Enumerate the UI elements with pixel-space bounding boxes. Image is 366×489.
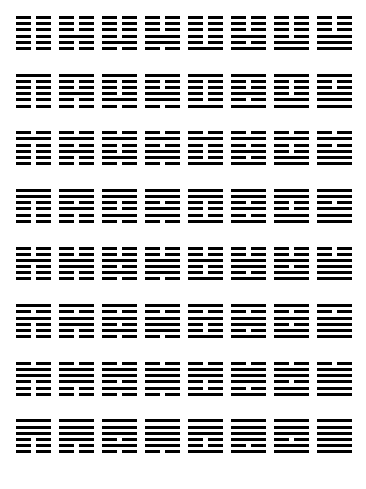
yin-line	[145, 450, 180, 453]
yang-line	[16, 432, 51, 435]
line-segment	[59, 432, 94, 435]
hexagram-24	[317, 131, 352, 165]
line-segment-left	[16, 201, 31, 204]
line-segment	[16, 259, 51, 262]
line-segment-left	[188, 98, 203, 101]
line-segment-right	[251, 86, 266, 89]
yin-line	[145, 80, 180, 83]
yang-line	[16, 304, 51, 307]
line-segment-right	[79, 41, 94, 44]
yin-line	[188, 329, 223, 332]
line-segment-right	[79, 22, 94, 25]
line-segment	[274, 137, 309, 140]
line-segment-right	[165, 105, 180, 108]
yang-line	[274, 304, 309, 307]
line-segment-left	[16, 323, 31, 326]
hexagram-57	[16, 419, 51, 453]
line-segment-right	[79, 393, 94, 396]
hexagram-cell	[55, 72, 98, 130]
line-segment	[274, 156, 309, 159]
hexagram-cell	[313, 417, 356, 475]
yin-line	[16, 387, 51, 390]
hexagram-49	[16, 362, 51, 396]
line-segment-right	[208, 380, 223, 383]
yin-line	[59, 387, 94, 390]
yang-line	[317, 374, 352, 377]
line-segment	[231, 304, 266, 307]
yang-line	[231, 426, 266, 429]
hexagram-cell	[184, 187, 227, 245]
yang-line	[274, 98, 309, 101]
yin-line	[188, 362, 223, 365]
hexagram-cell	[141, 360, 184, 418]
yang-line	[102, 259, 137, 262]
line-segment	[188, 74, 223, 77]
hexagram-cell	[98, 72, 141, 130]
yin-line	[59, 144, 94, 147]
hexagram-39	[274, 247, 309, 281]
line-segment	[317, 214, 352, 217]
yin-line	[16, 362, 51, 365]
yin-line	[188, 41, 223, 44]
line-segment-right	[251, 329, 266, 332]
line-segment	[274, 432, 309, 435]
line-segment-right	[36, 438, 51, 441]
hexagram-6	[231, 16, 266, 50]
yin-line	[274, 16, 309, 19]
line-segment-left	[102, 105, 117, 108]
yin-line	[59, 271, 94, 274]
yang-line	[59, 189, 94, 192]
hexagram-cell	[313, 72, 356, 130]
line-segment-right	[165, 220, 180, 223]
line-segment	[188, 368, 223, 371]
hexagram-62	[231, 419, 266, 453]
line-segment-left	[274, 92, 289, 95]
yang-line	[59, 368, 94, 371]
line-segment	[231, 189, 266, 192]
line-segment-right	[79, 28, 94, 31]
yin-line	[16, 86, 51, 89]
line-segment-right	[208, 131, 223, 134]
line-segment-right	[208, 92, 223, 95]
hexagram-8	[317, 16, 352, 50]
yang-line	[145, 317, 180, 320]
line-segment	[317, 35, 352, 38]
yin-line	[188, 16, 223, 19]
yang-line	[102, 214, 137, 217]
yin-line	[274, 28, 309, 31]
line-segment	[16, 137, 51, 140]
line-segment-left	[188, 380, 203, 383]
yin-line	[145, 220, 180, 223]
yang-line	[231, 35, 266, 38]
yin-line	[274, 131, 309, 134]
yang-line	[274, 105, 309, 108]
yang-line	[317, 35, 352, 38]
line-segment	[317, 259, 352, 262]
line-segment	[274, 47, 309, 50]
yang-line	[59, 419, 94, 422]
yin-line	[102, 201, 137, 204]
line-segment	[231, 47, 266, 50]
line-segment-right	[36, 201, 51, 204]
line-segment-right	[208, 80, 223, 83]
yin-line	[274, 80, 309, 83]
yin-line	[16, 144, 51, 147]
hexagram-cell	[98, 245, 141, 303]
line-segment	[145, 214, 180, 217]
line-segment-right	[208, 323, 223, 326]
yin-line	[317, 131, 352, 134]
yang-line	[145, 329, 180, 332]
line-segment-left	[102, 450, 117, 453]
line-segment-left	[59, 41, 74, 44]
yin-line	[145, 335, 180, 338]
yang-line	[145, 426, 180, 429]
line-segment	[317, 189, 352, 192]
yang-line	[59, 150, 94, 153]
line-segment	[317, 162, 352, 165]
yin-line	[274, 92, 309, 95]
yang-line	[231, 438, 266, 441]
line-segment-left	[59, 131, 74, 134]
line-segment-left	[16, 35, 31, 38]
line-segment	[102, 195, 137, 198]
line-segment-left	[317, 247, 332, 250]
